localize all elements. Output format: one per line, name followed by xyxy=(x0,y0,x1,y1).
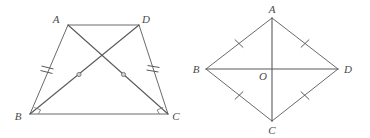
right-figure-rhombus: A B D C O xyxy=(0,0,370,138)
vertex-label-right-D: D xyxy=(343,63,352,75)
vertex-label-right-C: C xyxy=(268,124,276,136)
center-label-right-O: O xyxy=(259,70,267,82)
vertex-label-right-A: A xyxy=(268,3,276,15)
geometry-figure-canvas: A D B C A B D C O xyxy=(0,0,370,138)
vertex-label-right-B: B xyxy=(193,63,200,75)
